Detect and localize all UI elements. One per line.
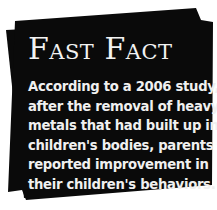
body-line: According to a 2006 study, xyxy=(28,77,217,97)
fast-fact-card: Fast Fact According to a 2006 study, aft… xyxy=(0,0,217,210)
body-line: after the removal of heavy xyxy=(28,97,217,117)
card-title: Fast Fact xyxy=(28,34,172,64)
body-line: metals that had built up in xyxy=(28,116,217,136)
body-line: children's bodies, parents xyxy=(28,136,217,156)
body-line: their children's behaviors. xyxy=(28,175,217,195)
body-line: reported improvement in xyxy=(28,155,217,175)
card-body-text: According to a 2006 study, after the rem… xyxy=(28,77,217,194)
